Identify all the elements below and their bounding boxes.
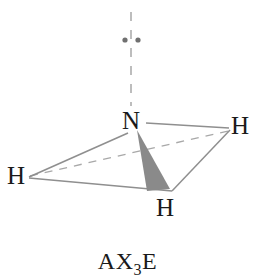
lone-pair-dot-left [122, 37, 127, 42]
formula-subscript: 3 [134, 261, 143, 278]
base-edge-left-to-right-hidden [30, 131, 228, 176]
bond-n-to-h-bottom-wedge [137, 130, 170, 191]
atom-label-hydrogen-right: H [231, 113, 249, 138]
formula-prefix: AX [98, 248, 134, 274]
atom-label-nitrogen: N [122, 108, 140, 133]
bond-n-to-h-right [146, 123, 229, 128]
atom-label-hydrogen-bottom: H [156, 195, 174, 220]
vsepr-formula-caption: AX3E [0, 246, 255, 276]
atom-label-hydrogen-left: H [7, 163, 25, 188]
formula-suffix: E [142, 248, 157, 274]
bond-n-to-h-left [29, 133, 128, 177]
base-edge-bottom-to-right [172, 130, 230, 191]
lone-pair-dot-right [135, 37, 140, 42]
molecular-geometry-figure: N H H H AX3E [0, 0, 255, 279]
molecule-diagram-svg [0, 0, 255, 279]
